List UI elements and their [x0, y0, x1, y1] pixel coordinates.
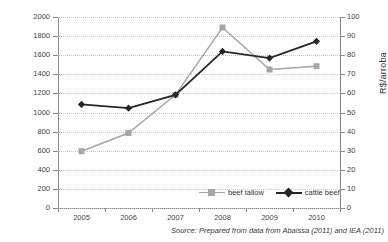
- x-axis-tick-label: 2006: [109, 214, 149, 222]
- y-axis-left-tick-label: 1400: [20, 70, 50, 78]
- x-axis-tick: [199, 208, 200, 212]
- gridline: [58, 74, 340, 75]
- y-axis-right-tick: [340, 189, 345, 190]
- y-axis-left-tick-label: 2000: [20, 13, 50, 21]
- legend-entry[interactable]: beef tallow: [199, 188, 264, 197]
- y-axis-right-tick-label: 20: [347, 166, 371, 174]
- legend-entry[interactable]: cattle beef: [276, 188, 340, 197]
- y-axis-left-tick: [53, 55, 58, 56]
- legend-diamond-icon: [276, 188, 302, 197]
- y-axis-left-tick-label: 1600: [20, 51, 50, 59]
- y-axis-right-title: R$/arroba: [378, 52, 388, 94]
- y-axis-right-tick: [340, 170, 345, 171]
- y-axis-left-tick: [53, 170, 58, 171]
- x-axis-tick-label: 2010: [297, 214, 337, 222]
- legend-marker: [208, 189, 215, 196]
- y-axis-right-tick-label: 50: [347, 109, 371, 117]
- y-axis-left-tick: [53, 151, 58, 152]
- chart-figure: 0200400600800100012001400160018002000010…: [0, 0, 388, 242]
- y-axis-left-tick-label: 0: [20, 204, 50, 212]
- y-axis-left-tick-label: 600: [20, 147, 50, 155]
- source-note: Source: Prepared from data from Abaissa …: [171, 226, 384, 235]
- gridline: [58, 36, 340, 37]
- y-axis-right-tick-label: 60: [347, 89, 371, 97]
- y-axis-left-tick-label: 200: [20, 185, 50, 193]
- x-axis-tick-label: 2008: [203, 214, 243, 222]
- y-axis-left-tick: [53, 113, 58, 114]
- gridline: [58, 93, 340, 94]
- x-axis-tick-label: 2009: [250, 214, 290, 222]
- y-axis-right-tick-label: 30: [347, 147, 371, 155]
- y-axis-left-tick-label: 1200: [20, 89, 50, 97]
- y-axis-right-tick: [340, 17, 345, 18]
- y-axis-right-tick-label: 100: [347, 13, 371, 21]
- gridline: [58, 17, 340, 18]
- legend-label: beef tallow: [228, 188, 264, 197]
- y-axis-right-tick: [340, 36, 345, 37]
- y-axis-left-tick: [53, 17, 58, 18]
- x-axis-tick-label: 2007: [156, 214, 196, 222]
- y-axis-right-tick-label: 80: [347, 51, 371, 59]
- y-axis-left-tick: [53, 189, 58, 190]
- y-axis-right-tick: [340, 93, 345, 94]
- chart-legend: beef tallowcattle beef: [199, 188, 339, 197]
- y-axis-right-tick: [340, 113, 345, 114]
- y-axis-left-tick: [53, 93, 58, 94]
- x-axis-tick: [293, 208, 294, 212]
- y-axis-left-tick: [53, 36, 58, 37]
- y-axis-left-tick-label: 400: [20, 166, 50, 174]
- legend-square-icon: [199, 188, 225, 197]
- gridline: [58, 113, 340, 114]
- gridline: [58, 132, 340, 133]
- plot-area: [58, 17, 340, 208]
- y-axis-right-tick: [340, 74, 345, 75]
- y-axis-right-tick-label: 10: [347, 185, 371, 193]
- x-axis-tick: [340, 208, 341, 212]
- gridline: [58, 170, 340, 171]
- y-axis-right-tick-label: 70: [347, 70, 371, 78]
- x-axis-tick: [105, 208, 106, 212]
- gridline: [58, 55, 340, 56]
- y-axis-right-tick: [340, 151, 345, 152]
- x-axis-tick: [246, 208, 247, 212]
- x-axis-tick: [152, 208, 153, 212]
- y-axis-right-tick-label: 40: [347, 128, 371, 136]
- y-axis-left-tick: [53, 74, 58, 75]
- y-axis-left-tick-label: 800: [20, 128, 50, 136]
- y-axis-left-tick-label: 1800: [20, 32, 50, 40]
- y-axis-right-tick-label: 0: [347, 204, 371, 212]
- y-axis-left-tick-label: 1000: [20, 109, 50, 117]
- y-axis-left-tick: [53, 132, 58, 133]
- legend-marker: [283, 188, 293, 198]
- y-axis-right-tick-label: 90: [347, 32, 371, 40]
- y-axis-right-tick: [340, 55, 345, 56]
- legend-label: cattle beef: [305, 188, 340, 197]
- gridline: [58, 151, 340, 152]
- chart-title-clipped: [0, 0, 388, 6]
- x-axis-tick-label: 2005: [62, 214, 102, 222]
- y-axis-right-tick: [340, 132, 345, 133]
- x-axis-tick: [58, 208, 59, 212]
